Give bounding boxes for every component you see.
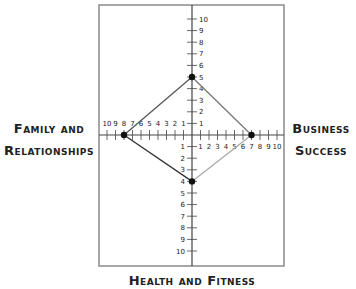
tick-label: 3 [215, 143, 219, 151]
tick-label: 2 [181, 155, 185, 163]
tick-label: 8 [122, 120, 126, 128]
data-point-down [189, 178, 195, 184]
tick-label: 7 [181, 213, 185, 221]
axis-label-right-line2: Success [286, 140, 356, 162]
tick-label: 6 [199, 62, 204, 70]
tick-label: 1 [181, 120, 185, 128]
tick-label: 3 [181, 166, 185, 174]
axis-label-right-line1: Business [286, 118, 356, 140]
tick-label: 9 [113, 120, 117, 128]
axis-label-left-line2: Relationships [0, 140, 98, 162]
tick-label: 8 [199, 39, 203, 47]
tick-label: 1 [199, 120, 203, 128]
tick-label: 7 [199, 50, 203, 58]
tick-label: 7 [249, 143, 253, 151]
data-point-up [189, 74, 195, 80]
axis-label-business-success: Business Success [286, 118, 356, 162]
tick-label: 4 [224, 143, 229, 151]
tick-label: 3 [199, 97, 203, 105]
polygon-edge-lower-right [192, 135, 252, 181]
tick-label: 6 [181, 201, 186, 209]
tick-label: 2 [199, 108, 203, 116]
tick-label: 5 [181, 190, 185, 198]
tick-label: 4 [181, 178, 186, 186]
tick-label: 1 [181, 143, 185, 151]
tick-label: 9 [266, 143, 270, 151]
tick-label: 10 [176, 248, 185, 256]
tick-label: 3 [164, 120, 168, 128]
data-point-right [248, 132, 254, 138]
tick-label: 6 [241, 143, 246, 151]
axis-label-family-relationships: Family and Relationships [0, 118, 98, 162]
data-points [121, 74, 255, 185]
tick-label: 8 [258, 143, 262, 151]
axis-label-health-fitness: Health and Fitness [100, 270, 284, 289]
tick-label: 4 [156, 120, 161, 128]
tick-label: 1 [198, 143, 202, 151]
tick-label: 8 [181, 224, 185, 232]
data-point-left [121, 132, 127, 138]
tick-label: 10 [103, 120, 112, 128]
tick-label: 2 [207, 143, 211, 151]
tick-label: 9 [199, 27, 203, 35]
tick-label: 5 [199, 74, 203, 82]
axis-label-left-line1: Family and [0, 118, 98, 140]
tick-label: 10 [199, 16, 208, 24]
data-polygon [124, 77, 252, 181]
tick-label: 2 [173, 120, 177, 128]
tick-label: 10 [273, 143, 282, 151]
tick-label: 9 [181, 236, 185, 244]
tick-label: 5 [147, 120, 151, 128]
